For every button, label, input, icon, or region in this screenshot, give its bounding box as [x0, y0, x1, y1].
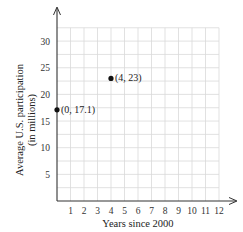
x-tick-label: 5 [122, 206, 127, 216]
x-tick-label: 4 [109, 206, 114, 216]
data-point [108, 76, 113, 81]
y-tick-label: 30 [41, 37, 51, 47]
y-tick-label: 20 [41, 90, 51, 100]
scatter-chart: 123456789101112 51015202530 (0, 17.1)(4,… [0, 0, 243, 232]
y-tick-label: 5 [45, 170, 50, 180]
x-axis-label: Years since 2000 [102, 218, 173, 229]
x-tick-label: 12 [214, 206, 224, 216]
data-point-label: (0, 17.1) [61, 104, 95, 116]
x-tick-label: 2 [82, 206, 87, 216]
data-point [54, 107, 59, 112]
y-tick-label: 10 [41, 143, 51, 153]
x-tick-label: 8 [163, 206, 168, 216]
x-tick-label: 9 [176, 206, 181, 216]
y-tick-labels: 51015202530 [41, 37, 51, 180]
x-tick-label: 3 [95, 206, 100, 216]
x-tick-label: 1 [68, 206, 73, 216]
data-point-label: (4, 23) [115, 72, 142, 84]
x-tick-label: 11 [201, 206, 210, 216]
x-tick-label: 7 [149, 206, 154, 216]
y-tick-label: 15 [41, 117, 51, 127]
x-tick-labels: 123456789101112 [68, 206, 224, 216]
x-tick-label: 10 [187, 206, 197, 216]
x-tick-label: 6 [136, 206, 141, 216]
y-axis-label-line1: Average U.S. participation [14, 63, 25, 176]
y-tick-label: 25 [41, 63, 51, 73]
y-axis-label-line2: (in millions) [26, 93, 38, 146]
